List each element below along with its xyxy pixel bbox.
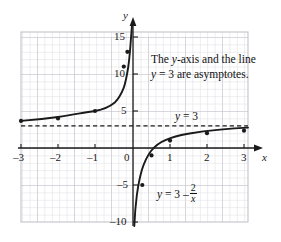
asymptote-note-line-2: y = 3 are asymptotes. [151, 67, 277, 82]
note-text-prefix: The [151, 53, 172, 65]
data-point [93, 109, 97, 113]
y-axis-name: y [123, 10, 128, 21]
data-point [242, 129, 246, 133]
data-point [205, 131, 209, 135]
asymptote-label-y3: y = 3 [175, 110, 198, 122]
x-tick-label-3: 3 [241, 152, 247, 163]
x-tick-label--2: –2 [50, 152, 61, 163]
asymptote-label-rest: = 3 [180, 110, 198, 122]
data-point [19, 119, 23, 123]
data-point [140, 183, 144, 187]
y-tick-label-5: 5 [121, 105, 127, 116]
origin-label: 0 [124, 152, 130, 163]
note-text-suffix-2: = 3 are asymptotes. [156, 68, 248, 80]
asymptote-note: The y-axis and the line y = 3 are asympt… [151, 52, 277, 81]
fraction-two-over-x: 2x [190, 183, 197, 205]
x-tick-label-1: 1 [167, 152, 173, 163]
y-tick-label-15: 15 [114, 31, 125, 42]
x-tick-label--3: –3 [13, 152, 24, 163]
data-point [56, 116, 60, 120]
x-axis-name: x [262, 152, 267, 163]
x-tick-label--1: –1 [87, 152, 98, 163]
y-tick-label--10: –10 [110, 216, 127, 227]
fraction-numerator: 2 [190, 183, 197, 193]
data-point [125, 50, 129, 54]
note-text-suffix: -axis and the line [177, 53, 256, 65]
data-point [149, 153, 153, 157]
fraction-denominator: x [190, 193, 197, 204]
equation-label: y = 3 –2x [157, 183, 197, 205]
y-tick-label--5: –5 [117, 179, 128, 190]
y-tick-label-10: 10 [114, 68, 125, 79]
equation-rest: = 3 – [162, 188, 189, 200]
x-tick-label-2: 2 [204, 152, 210, 163]
asymptote-note-line-1: The y-axis and the line [151, 52, 277, 67]
data-point [168, 139, 172, 143]
coordinate-plot [0, 0, 281, 242]
graph-figure: –3 –2 –1 0 1 2 3 15 10 5 –5 –10 y x The … [0, 0, 281, 242]
